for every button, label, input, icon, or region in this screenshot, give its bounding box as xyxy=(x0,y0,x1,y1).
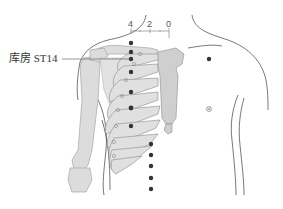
nipple-marker xyxy=(207,107,212,112)
arm-bones xyxy=(68,56,100,192)
scale-tick-0: 0 xyxy=(166,20,171,29)
scale-tick-4: 4 xyxy=(128,20,133,29)
point-label-st14: 库房 ST14 xyxy=(9,53,58,64)
scale-tick-2: 2 xyxy=(147,20,152,29)
anatomy-illustration xyxy=(0,0,283,209)
sternum xyxy=(158,48,184,134)
acupoint-right-chest xyxy=(207,57,211,61)
